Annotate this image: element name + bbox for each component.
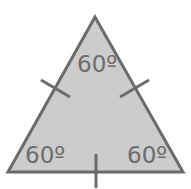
angle-label-top: 60º [77, 51, 117, 77]
angle-label-bottom-right: 60º [127, 142, 167, 168]
equilateral-triangle-diagram: 60º 60º 60º [0, 0, 191, 189]
angle-label-bottom-left: 60º [25, 142, 65, 168]
